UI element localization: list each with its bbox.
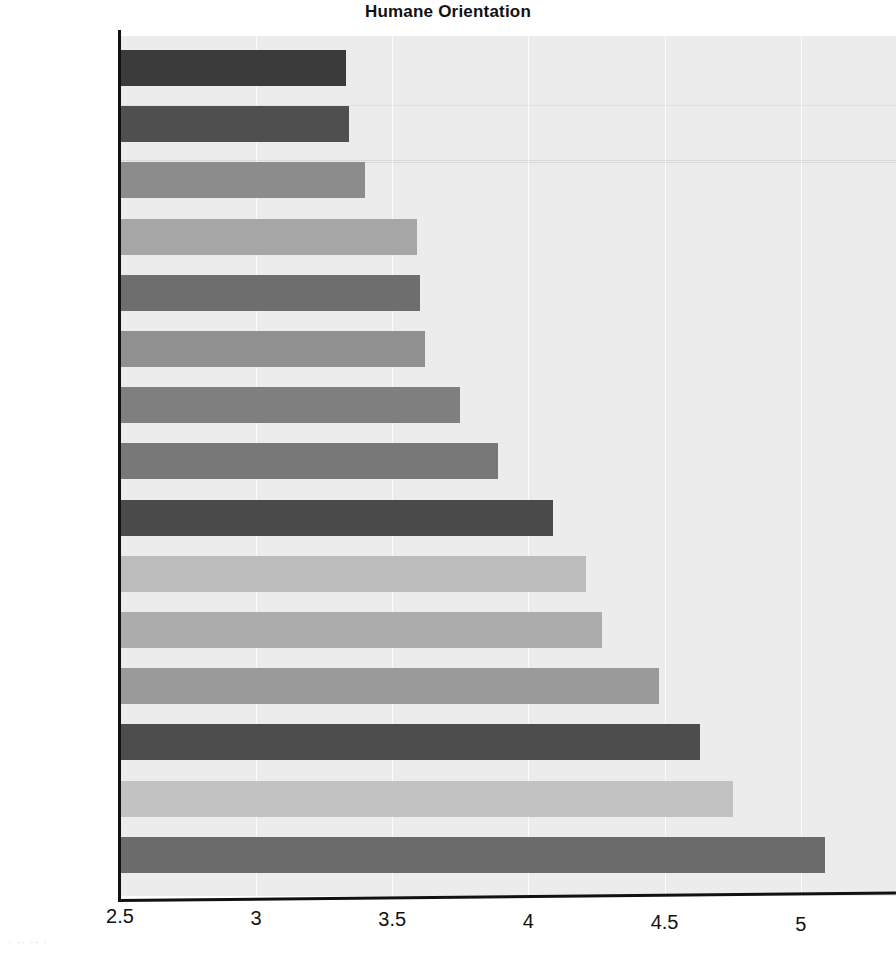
x-tick-5: 5 [795,913,806,936]
bar-chart: Humane Orientation SpainGreeceGermanyPol… [0,0,896,957]
bar-germany [120,162,365,198]
bar-malaysia [120,781,733,817]
gridline [665,36,666,896]
x-tick-3: 3 [251,907,262,930]
bar-poland [120,219,417,255]
chart-title: Humane Orientation [0,2,896,22]
x-tick-4-5: 4.5 [651,911,679,934]
gridline [528,36,529,896]
bar-greece [120,106,349,142]
bar-japan [120,556,586,592]
bar-slovenia [120,387,460,423]
bar-india [120,668,659,704]
gridline [801,36,802,896]
bar-italy [120,275,420,311]
bar-brazil [120,331,425,367]
y-axis-line [118,30,121,902]
bar-zambia [120,837,825,873]
x-tick-4: 4 [523,910,534,933]
bar-spain [120,50,346,86]
page-caption-smudge: · ·· ·· · [8,936,48,948]
scan-artifact-line [120,160,896,161]
bar-china [120,612,602,648]
x-tick-3-5: 3.5 [378,908,406,931]
bar-egypt [120,724,700,760]
x-tick-2-5: 2.5 [106,905,134,928]
bar-usa [120,500,553,536]
bar-turkey [120,443,498,479]
plot-area [120,36,896,896]
